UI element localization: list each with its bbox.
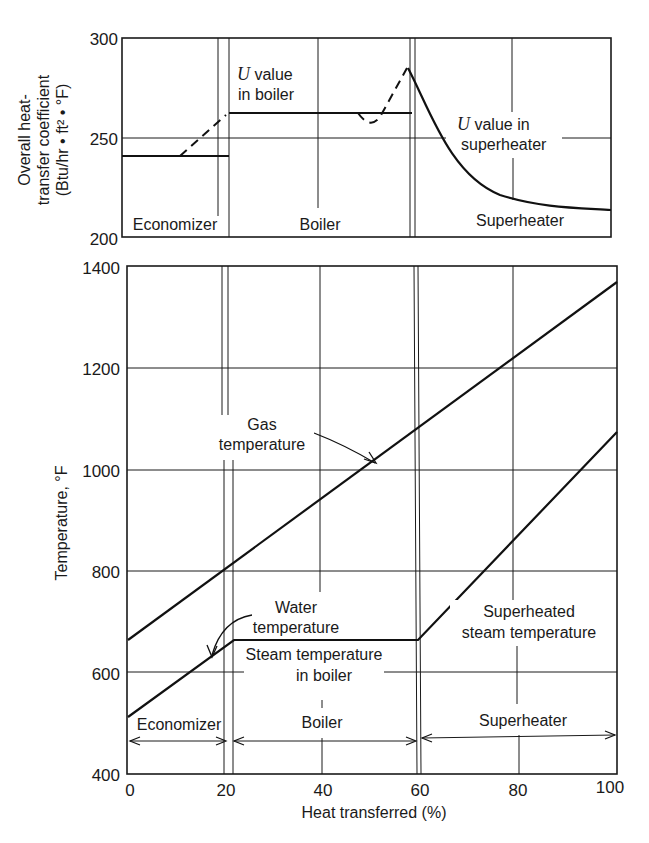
section-label-superheater-text: Superheater bbox=[476, 212, 565, 229]
anno-steam-line2: in boiler bbox=[296, 667, 353, 684]
x-axis-title: Heat transferred (%) bbox=[302, 804, 447, 821]
x-tick-20: 20 bbox=[217, 781, 236, 800]
y-axis-title: Temperature, °F bbox=[53, 465, 70, 580]
top-y-axis-title: Overall heat- transfer coefficient (Btu/… bbox=[16, 74, 71, 205]
anno-steam-line1: Steam temperature bbox=[246, 646, 383, 663]
u-symbol: U bbox=[457, 114, 471, 134]
anno-line2: in boiler bbox=[238, 86, 295, 103]
y-tick-400: 400 bbox=[92, 766, 120, 785]
y-tick-1400: 1400 bbox=[82, 259, 120, 278]
anno-superheated-line2: steam temperature bbox=[462, 624, 596, 641]
anno-water-line1: Water bbox=[275, 599, 318, 616]
u-boiler-super-dashed bbox=[358, 68, 407, 123]
svg-text:U value: U value bbox=[237, 64, 293, 84]
x-tick-100: 100 bbox=[596, 778, 624, 797]
anno-gas-line1: Gas bbox=[247, 416, 276, 433]
anno-gas-line2: temperature bbox=[219, 436, 305, 453]
x-tick-60: 60 bbox=[411, 781, 430, 800]
chart-figure: 300 250 200 Overall heat- transfer coeff… bbox=[0, 0, 649, 843]
top-y-title-line2: transfer coefficient bbox=[35, 74, 52, 205]
anno-superheated-line1: Superheated bbox=[483, 603, 575, 620]
gas-annotation-arrow bbox=[314, 433, 375, 463]
top-chart: 300 250 200 Overall heat- transfer coeff… bbox=[16, 30, 611, 249]
annotation-u-superheater: U value in superheater bbox=[455, 113, 555, 155]
section-divider-60 bbox=[414, 266, 417, 774]
y-tick-1200: 1200 bbox=[82, 360, 120, 379]
section-label-boiler: Boiler bbox=[302, 714, 344, 731]
y-tick-1000: 1000 bbox=[82, 462, 120, 481]
anno-water-line2: temperature bbox=[253, 619, 339, 636]
anno-text: value bbox=[250, 66, 293, 83]
section-label-superheater: Superheater bbox=[479, 712, 568, 729]
section-label-boiler: Boiler bbox=[300, 216, 342, 233]
y-tick-250: 250 bbox=[90, 130, 118, 149]
x-tick-0: 0 bbox=[125, 781, 134, 800]
top-y-title-line1: Overall heat- bbox=[16, 94, 33, 186]
annotation-u-boiler: U value in boiler bbox=[237, 64, 295, 103]
bottom-chart: Gas temperature Water temperature Steam … bbox=[53, 259, 624, 821]
section-label-economizer: Economizer bbox=[137, 716, 222, 733]
svg-text:U value in: U value in bbox=[457, 114, 530, 134]
anno-text: value in bbox=[470, 116, 530, 133]
anno-line2: superheater bbox=[461, 136, 547, 153]
top-y-title-line3: (Btu/hr • ft² • °F) bbox=[54, 84, 71, 197]
u-transition-dashed bbox=[180, 115, 226, 156]
section-label-economizer: Economizer bbox=[133, 216, 218, 233]
u-symbol: U bbox=[237, 64, 251, 84]
y-tick-200: 200 bbox=[90, 230, 118, 249]
x-tick-80: 80 bbox=[509, 781, 528, 800]
y-tick-300: 300 bbox=[90, 30, 118, 49]
section-divider-60 bbox=[418, 266, 421, 774]
bottom-plot-frame bbox=[127, 266, 617, 774]
x-tick-40: 40 bbox=[314, 781, 333, 800]
y-tick-800: 800 bbox=[92, 563, 120, 582]
y-tick-600: 600 bbox=[92, 665, 120, 684]
